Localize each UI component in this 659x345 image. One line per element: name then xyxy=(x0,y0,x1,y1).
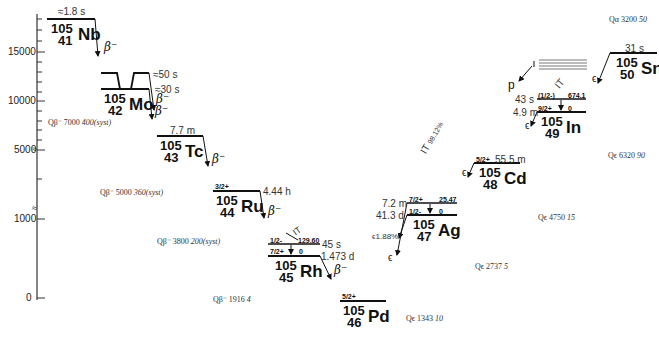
in-gs-energy: 0 xyxy=(568,105,572,112)
sn-halflife: 31 s xyxy=(625,43,644,54)
axis-break-mark: ≈ xyxy=(32,144,37,154)
axis-tick-label: 0 xyxy=(26,292,32,303)
axis-tick-label: 15000 xyxy=(8,46,36,57)
mo-halflife-1: ≈50 s xyxy=(153,69,177,80)
qvalue-label: Qϵ 1343 10 xyxy=(406,314,443,323)
ru-halflife: 4.44 h xyxy=(263,186,291,197)
ag-gs-spin: 1/2- xyxy=(409,208,421,215)
ag-isomer-halflife: 7.2 m xyxy=(382,198,407,209)
pd-spin: 5/2+ xyxy=(342,293,356,300)
axis-tick-label: 10000 xyxy=(8,95,36,106)
cd-ec-label: ϵ xyxy=(462,167,466,178)
sn-ec-label: ϵ xyxy=(592,73,596,84)
decay-diagram-lines xyxy=(0,0,659,345)
axis-break-mark: ≈ xyxy=(32,203,37,213)
tc-halflife: 7.7 m xyxy=(170,125,195,136)
rh-gs-energy: 0 xyxy=(299,248,303,255)
qvalue-label: Qϵ 2737 5 xyxy=(475,262,508,271)
beta-minus-label: β⁻ xyxy=(268,204,281,218)
in-proton-label: p xyxy=(508,78,515,92)
nb-halflife: ≈1.8 s xyxy=(58,6,85,17)
rh-isomer-halflife: 45 s xyxy=(322,239,341,250)
rh-gs-spin: 7/2+ xyxy=(270,248,284,255)
beta-minus-label: β⁻ xyxy=(334,263,347,277)
in-ec-label: ϵ xyxy=(525,120,529,131)
qvalue-label: Qβ⁻ 7000 400(syst) xyxy=(48,118,111,127)
rh-isomer-spin: 1/2- xyxy=(270,237,282,244)
beta-minus-label: β⁻ xyxy=(212,152,225,166)
qvalue-label: Qβ⁻ 1916 4 xyxy=(213,295,251,304)
cd-halflife: 55.5 m xyxy=(495,154,526,165)
in-gs-spin: 9/2+ xyxy=(538,105,552,112)
qvalue-label: Qϵ 6320 90 xyxy=(608,151,645,160)
in-isomer-spin: (1/2-) xyxy=(538,92,555,99)
in-isomer-halflife: 43 s xyxy=(515,94,534,105)
ru-spin: 3/2+ xyxy=(215,183,229,190)
ag-gs-energy: 0 xyxy=(439,208,443,215)
cd-spin: 5/2+ xyxy=(476,156,490,163)
ag-ec-label: ϵ xyxy=(388,252,392,263)
ag-isomer-energy: 25.47 xyxy=(439,196,457,203)
rh-isomer-energy: 129.60 xyxy=(298,237,319,244)
qvalue-label: Qβ⁻ 5000 360(syst) xyxy=(100,188,163,197)
qvalue-label: Qϵ 4750 15 xyxy=(538,213,575,222)
ag-isomer-spin: 7/2+ xyxy=(409,196,423,203)
beta-minus-label: β⁻ xyxy=(104,40,117,54)
rh-gs-halflife: 1.473 d xyxy=(321,251,354,262)
in-isomer-energy: 674.1 xyxy=(568,92,586,99)
axis-tick-label: 1000 xyxy=(14,213,36,224)
ag-ec-branch: ϵ1.88% xyxy=(372,232,398,241)
qvalue-label: Qα 3200 50 xyxy=(609,15,647,24)
ag-gs-halflife: 41.3 d xyxy=(376,210,404,221)
in-gs-halflife: 4.9 m xyxy=(513,107,538,118)
beta-minus-label: β⁻ xyxy=(155,104,168,118)
qvalue-label: Qβ⁻ 3800 200(syst) xyxy=(157,237,220,246)
